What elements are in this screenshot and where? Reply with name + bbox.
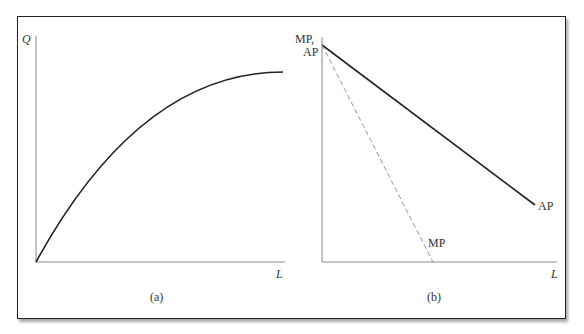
mp-curve-label: MP [428, 236, 445, 251]
mp-line [322, 45, 433, 262]
ap-line [322, 45, 535, 205]
panel-a-caption: (a) [150, 290, 163, 305]
panel-b-y-label-2: AP [303, 45, 318, 60]
ap-curve-label: AP [538, 199, 553, 214]
panel-a-x-label: L [276, 267, 283, 282]
panel-b-caption: (b) [427, 290, 441, 305]
panel-a-y-label: Q [22, 32, 31, 47]
production-curve [36, 72, 283, 262]
chart-canvas [0, 0, 584, 334]
panel-b-x-label: L [551, 267, 558, 282]
